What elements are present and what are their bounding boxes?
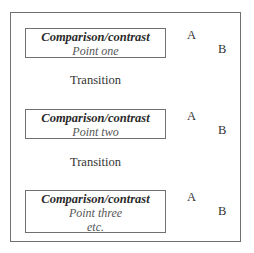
box-heading: Comparison/contrast [26, 30, 165, 44]
box-point: Point two [26, 125, 165, 139]
label-a: A [187, 190, 196, 205]
box-heading: Comparison/contrast [26, 111, 165, 125]
box-point: Point three [26, 206, 165, 220]
label-a: A [187, 28, 196, 43]
label-b: B [218, 204, 226, 219]
box-extra: etc. [26, 220, 165, 234]
box-heading: Comparison/contrast [26, 192, 165, 206]
label-b: B [218, 42, 226, 57]
comparison-box-2: Comparison/contrast Point two [25, 109, 166, 139]
comparison-box-1: Comparison/contrast Point one [25, 28, 166, 58]
label-a: A [187, 109, 196, 124]
box-point: Point one [26, 44, 165, 58]
label-b: B [218, 123, 226, 138]
transition-2: Transition [25, 155, 166, 170]
comparison-box-3: Comparison/contrast Point three etc. [25, 190, 166, 233]
transition-1: Transition [25, 73, 166, 88]
